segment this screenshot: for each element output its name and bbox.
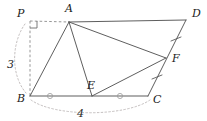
vertex-labels: P A D F B E C: [16, 2, 201, 106]
label-C: C: [153, 93, 162, 106]
measure-label-3: 3: [7, 58, 14, 71]
figure-edges: [30, 20, 186, 96]
segment-AB: [30, 22, 69, 96]
right-angle-mark-P: [30, 21, 37, 28]
segment-PA: [30, 21, 69, 22]
arc-bottom-4: [31, 100, 150, 113]
segment-DC: [148, 20, 186, 96]
label-P: P: [16, 7, 25, 20]
geometry-figure: P A D F B E C 3 4: [0, 0, 207, 121]
label-D: D: [191, 7, 201, 20]
arc-left-3: [15, 24, 26, 93]
segment-AD: [69, 20, 186, 22]
label-B: B: [16, 92, 25, 105]
label-E: E: [86, 79, 95, 92]
segment-AF: [69, 22, 166, 58]
label-F: F: [171, 52, 180, 65]
figure-canvas: P A D F B E C 3 4: [0, 0, 207, 121]
measurement-arcs: [15, 24, 150, 113]
label-A: A: [64, 2, 73, 15]
measure-label-4: 4: [76, 107, 84, 120]
segment-EF: [92, 58, 166, 96]
